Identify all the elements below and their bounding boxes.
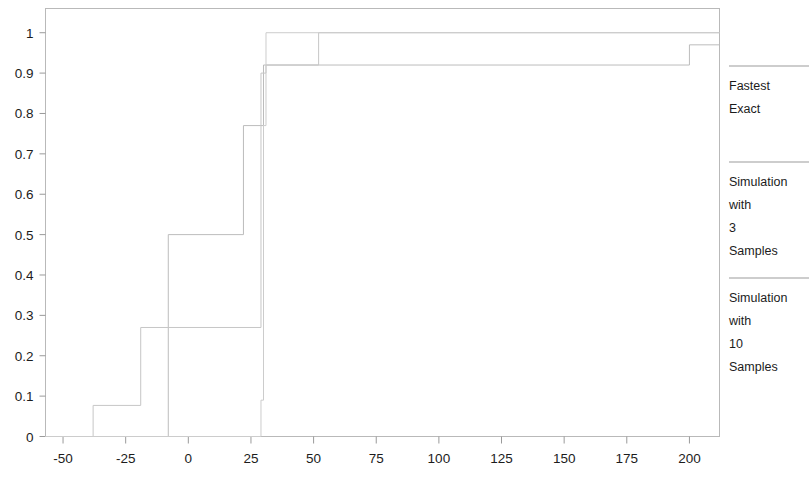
- legend-label-1: Samples: [729, 244, 778, 258]
- x-tick-label: -50: [53, 451, 73, 466]
- legend-label-2: with: [728, 314, 751, 328]
- x-tick-label: 50: [306, 451, 321, 466]
- series-layer: [46, 33, 720, 437]
- y-tick-label: 0.1: [15, 389, 34, 404]
- x-tick-label: 100: [428, 451, 451, 466]
- x-tick-label: 175: [616, 451, 639, 466]
- x-tick-label: -25: [116, 451, 136, 466]
- y-tick-label: 0.2: [15, 349, 34, 364]
- ecdf-step-chart: 00.10.20.30.40.50.60.70.80.91 -50-250255…: [0, 0, 812, 478]
- x-tick-label: 200: [678, 451, 701, 466]
- legend-label-1: 3: [729, 221, 736, 235]
- y-tick-label: 0: [26, 430, 34, 445]
- legend-label-2: Samples: [729, 360, 778, 374]
- legend-label-2: 10: [729, 337, 743, 351]
- chart-figure: 00.10.20.30.40.50.60.70.80.91 -50-250255…: [0, 0, 812, 478]
- y-tick-label: 1: [26, 26, 34, 41]
- chart-legend: FastestExactSimulationwith3SamplesSimula…: [728, 66, 809, 374]
- plot-frame: [46, 9, 720, 437]
- x-tick-label: 0: [185, 451, 193, 466]
- y-tick-label: 0.5: [15, 228, 34, 243]
- legend-label-1: Simulation: [729, 175, 787, 189]
- y-tick-label: 0.4: [15, 268, 34, 283]
- x-tick-label: 150: [553, 451, 576, 466]
- x-tick-label: 25: [243, 451, 258, 466]
- series-line-1: [46, 33, 720, 437]
- y-tick-label: 0.9: [15, 66, 34, 81]
- y-tick-label: 0.3: [15, 308, 34, 323]
- legend-label-2: Simulation: [729, 291, 787, 305]
- y-tick-label: 0.6: [15, 187, 34, 202]
- series-line-2: [46, 33, 720, 437]
- legend-label-0: Exact: [729, 102, 761, 116]
- y-axis-ticks: 00.10.20.30.40.50.60.70.80.91: [15, 26, 46, 445]
- y-tick-label: 0.7: [15, 147, 34, 162]
- y-tick-label: 0.8: [15, 106, 34, 121]
- legend-label-1: with: [728, 198, 751, 212]
- legend-label-0: Fastest: [729, 79, 771, 93]
- x-tick-label: 75: [369, 451, 384, 466]
- series-line-0: [46, 45, 720, 437]
- x-tick-label: 125: [490, 451, 513, 466]
- x-axis-ticks: -50-250255075100125150175200: [53, 437, 700, 466]
